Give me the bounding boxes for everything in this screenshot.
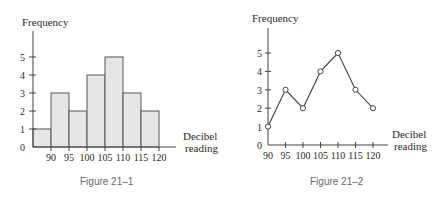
- polygon-points: [265, 50, 375, 129]
- polygon-x-tick-label: 100: [296, 150, 311, 161]
- histogram-x-ticks: 9095100105110115120: [46, 147, 167, 163]
- histogram-bars: [33, 57, 159, 147]
- histogram-y-tick-label: 1: [20, 124, 25, 135]
- polygon-y-tick-label: 4: [257, 66, 262, 77]
- polygon-data-point: [335, 50, 340, 55]
- polygon-x-tick-label: 90: [263, 150, 273, 161]
- polygon-x-tick-label: 95: [281, 150, 291, 161]
- figure-caption-21-2: Figure 21–2: [310, 176, 363, 187]
- histogram-bar: [51, 93, 69, 147]
- histogram-y-tick-label: 3: [20, 88, 25, 99]
- histogram-bar: [69, 111, 87, 147]
- histogram-x-tick-label: 95: [64, 152, 74, 163]
- histogram-x-tick-label: 90: [46, 152, 56, 163]
- polygon-data-point: [300, 106, 305, 111]
- figure-caption-21-1: Figure 21–1: [80, 176, 133, 187]
- polygon-x-tick-label: 115: [348, 150, 363, 161]
- polygon-data-point: [318, 69, 323, 74]
- histogram-y-tick-label: 5: [20, 52, 25, 63]
- histogram-x-tick-label: 115: [134, 152, 149, 163]
- histogram-chart: Frequency 012345 9095100105110115120 Dec…: [0, 0, 224, 199]
- polygon-data-point: [265, 124, 270, 129]
- frequency-polygon-chart: Frequency 012345 9095100105110115120 Dec…: [224, 0, 448, 199]
- polygon-y-tick-label: 1: [257, 122, 262, 133]
- histogram-bar: [105, 57, 123, 147]
- histogram-y-tick-label: 4: [20, 70, 25, 81]
- histogram-x-tick-label: 100: [80, 152, 95, 163]
- histogram-x-tick-label: 110: [116, 152, 131, 163]
- polygon-data-point: [370, 106, 375, 111]
- polygon-data-point: [283, 87, 288, 92]
- polygon-x-tick-label: 110: [331, 150, 346, 161]
- polygon-x-axis-label-line1: Decibel: [392, 128, 426, 140]
- histogram-y-axis-label: Frequency: [22, 16, 69, 28]
- histogram-x-axis-label-line1: Decibel: [183, 130, 217, 142]
- polygon-y-tick-label: 2: [257, 103, 262, 114]
- polygon-x-tick-label: 105: [313, 150, 328, 161]
- histogram-bar: [87, 75, 105, 147]
- histogram-figure: Frequency 012345 9095100105110115120 Dec…: [0, 0, 224, 199]
- polygon-y-tick-label: 0: [257, 140, 262, 151]
- polygon-x-axis-label-line2: reading: [394, 140, 427, 152]
- histogram-y-tick-label: 0: [20, 142, 25, 153]
- frequency-polygon-figure: Frequency 012345 9095100105110115120 Dec…: [224, 0, 448, 199]
- polygon-x-tick-label: 120: [366, 150, 381, 161]
- histogram-bar: [33, 129, 51, 147]
- histogram-bar: [141, 111, 159, 147]
- histogram-bar: [123, 93, 141, 147]
- histogram-x-tick-label: 120: [152, 152, 167, 163]
- histogram-y-tick-label: 2: [20, 106, 25, 117]
- polygon-y-tick-label: 5: [257, 48, 262, 59]
- polygon-data-point: [353, 87, 358, 92]
- histogram-x-tick-label: 105: [98, 152, 113, 163]
- polygon-y-axis-label: Frequency: [252, 12, 299, 24]
- polygon-y-tick-label: 3: [257, 85, 262, 96]
- histogram-x-axis-label-line2: reading: [185, 142, 218, 154]
- polygon-y-ticks: 012345: [257, 48, 271, 151]
